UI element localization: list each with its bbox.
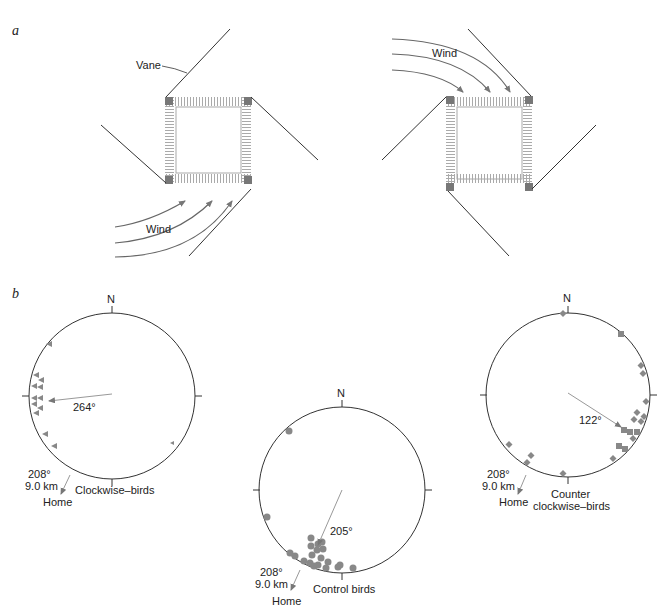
north-label: N: [563, 292, 571, 304]
vane: [101, 125, 166, 183]
home-distance-label: 9.0 km: [25, 480, 58, 492]
figure: a Vane Wind: [0, 0, 672, 614]
corner-post: [525, 183, 533, 191]
mean-vector-arrow: [49, 394, 112, 401]
mean-angle-label: 205°: [330, 525, 353, 537]
vane: [532, 125, 596, 189]
home-label: Home: [43, 496, 72, 508]
arena-counterclockwise: Wind: [382, 29, 596, 256]
home-angle-label: 208°: [28, 468, 51, 480]
group-caption: Control birds: [313, 583, 376, 595]
group-caption-line1: Counter: [551, 488, 590, 500]
corner-post: [525, 96, 533, 104]
panel-a-label: a: [12, 23, 19, 38]
wind-arrow: [115, 201, 212, 243]
corner-post: [165, 97, 173, 105]
wind-label: Wind: [432, 47, 457, 59]
north-label: N: [337, 387, 345, 399]
vane: [166, 29, 230, 97]
home-angle-label: 208°: [487, 468, 510, 480]
circular-plot-control: N 205° 208° 9.0 km Home Control birds: [253, 387, 432, 607]
wind-arrow: [392, 70, 463, 92]
circular-plot-counterclockwise: N 122° 208° 9.0 km Home: [480, 292, 657, 512]
circular-plot-clockwise: N 264° 208° 9.0 km Home Clockwise–birds: [22, 293, 202, 508]
vane: [382, 97, 446, 160]
corner-post: [446, 96, 454, 104]
diamond-markers: [506, 310, 650, 477]
corner-post: [244, 97, 252, 105]
home-label: Home: [272, 595, 301, 607]
home-label: Home: [499, 496, 528, 508]
vane: [251, 97, 318, 160]
vane-label: Vane: [136, 59, 161, 71]
circle-markers: [264, 428, 357, 572]
corner-post: [244, 176, 252, 184]
wind-label: Wind: [146, 223, 171, 235]
mean-angle-label: 122°: [579, 414, 602, 426]
wind-arrow: [392, 54, 490, 92]
vane: [468, 29, 531, 96]
mean-angle-label: 264°: [73, 401, 96, 413]
home-direction-arrow: [61, 475, 70, 494]
home-direction-arrow: [518, 475, 526, 494]
home-angle-label: 208°: [260, 566, 283, 578]
vane: [189, 189, 251, 256]
home-direction-arrow: [291, 570, 300, 590]
panel-b-label: b: [12, 286, 19, 301]
home-distance-label: 9.0 km: [255, 578, 288, 590]
group-caption: Clockwise–birds: [75, 484, 155, 496]
north-label: N: [107, 293, 115, 305]
home-distance-label: 9.0 km: [482, 480, 515, 492]
group-caption-line2: clockwise–birds: [533, 500, 611, 512]
corner-post: [165, 176, 173, 184]
corner-post: [446, 183, 454, 191]
arena-clockwise: Vane Wind: [101, 29, 318, 257]
vane: [448, 191, 509, 256]
